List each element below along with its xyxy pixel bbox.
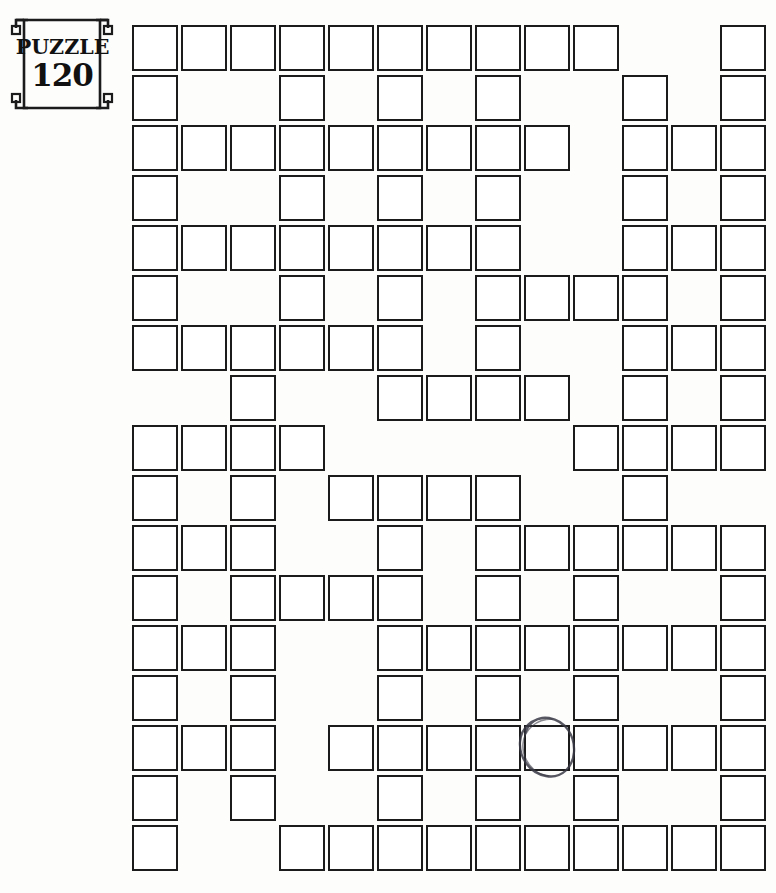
grid-cell[interactable] (426, 825, 472, 871)
grid-cell[interactable] (475, 775, 521, 821)
grid-cell[interactable] (279, 575, 325, 621)
grid-cell[interactable] (524, 125, 570, 171)
grid-cell[interactable] (230, 225, 276, 271)
grid-cell[interactable] (573, 525, 619, 571)
grid-cell[interactable] (132, 125, 178, 171)
grid-cell[interactable] (181, 125, 227, 171)
grid-cell[interactable] (524, 725, 570, 771)
grid-cell[interactable] (132, 225, 178, 271)
grid-cell[interactable] (230, 625, 276, 671)
grid-cell[interactable] (475, 375, 521, 421)
grid-cell[interactable] (132, 625, 178, 671)
grid-cell[interactable] (377, 325, 423, 371)
grid-cell[interactable] (671, 425, 717, 471)
grid-cell[interactable] (279, 125, 325, 171)
grid-cell[interactable] (132, 825, 178, 871)
grid-cell[interactable] (573, 575, 619, 621)
grid-cell[interactable] (475, 175, 521, 221)
grid-cell[interactable] (720, 825, 766, 871)
grid-cell[interactable] (132, 775, 178, 821)
grid-cell[interactable] (671, 825, 717, 871)
grid-cell[interactable] (475, 725, 521, 771)
grid-cell[interactable] (720, 175, 766, 221)
grid-cell[interactable] (720, 75, 766, 121)
grid-cell[interactable] (230, 725, 276, 771)
grid-cell[interactable] (181, 325, 227, 371)
grid-cell[interactable] (132, 575, 178, 621)
grid-cell[interactable] (181, 625, 227, 671)
grid-cell[interactable] (720, 725, 766, 771)
grid-cell[interactable] (622, 325, 668, 371)
grid-cell[interactable] (230, 675, 276, 721)
grid-cell[interactable] (720, 425, 766, 471)
grid-cell[interactable] (524, 25, 570, 71)
grid-cell[interactable] (230, 125, 276, 171)
grid-cell[interactable] (524, 825, 570, 871)
grid-cell[interactable] (475, 25, 521, 71)
grid-cell[interactable] (622, 475, 668, 521)
grid-cell[interactable] (720, 225, 766, 271)
grid-cell[interactable] (279, 225, 325, 271)
grid-cell[interactable] (573, 825, 619, 871)
grid-cell[interactable] (230, 25, 276, 71)
grid-cell[interactable] (230, 325, 276, 371)
grid-cell[interactable] (230, 775, 276, 821)
grid-cell[interactable] (475, 125, 521, 171)
grid-cell[interactable] (132, 175, 178, 221)
grid-cell[interactable] (328, 475, 374, 521)
grid-cell[interactable] (573, 675, 619, 721)
grid-cell[interactable] (328, 325, 374, 371)
grid-cell[interactable] (426, 25, 472, 71)
grid-cell[interactable] (671, 125, 717, 171)
grid-cell[interactable] (181, 25, 227, 71)
grid-cell[interactable] (132, 25, 178, 71)
grid-cell[interactable] (181, 425, 227, 471)
grid-cell[interactable] (377, 825, 423, 871)
grid-cell[interactable] (720, 525, 766, 571)
grid-cell[interactable] (377, 525, 423, 571)
grid-cell[interactable] (671, 725, 717, 771)
grid-cell[interactable] (230, 475, 276, 521)
grid-cell[interactable] (230, 425, 276, 471)
grid-cell[interactable] (524, 625, 570, 671)
grid-cell[interactable] (426, 475, 472, 521)
grid-cell[interactable] (720, 25, 766, 71)
grid-cell[interactable] (279, 25, 325, 71)
grid-cell[interactable] (622, 725, 668, 771)
grid-cell[interactable] (475, 525, 521, 571)
grid-cell[interactable] (328, 575, 374, 621)
grid-cell[interactable] (671, 325, 717, 371)
grid-cell[interactable] (377, 375, 423, 421)
grid-cell[interactable] (720, 575, 766, 621)
grid-cell[interactable] (524, 375, 570, 421)
grid-cell[interactable] (328, 225, 374, 271)
grid-cell[interactable] (720, 325, 766, 371)
grid-cell[interactable] (377, 775, 423, 821)
grid-cell[interactable] (622, 125, 668, 171)
grid-cell[interactable] (573, 725, 619, 771)
grid-cell[interactable] (524, 275, 570, 321)
grid-cell[interactable] (475, 575, 521, 621)
grid-cell[interactable] (475, 75, 521, 121)
grid-cell[interactable] (573, 25, 619, 71)
grid-cell[interactable] (475, 325, 521, 371)
grid-cell[interactable] (720, 275, 766, 321)
grid-cell[interactable] (377, 725, 423, 771)
grid-cell[interactable] (377, 75, 423, 121)
grid-cell[interactable] (524, 525, 570, 571)
grid-cell[interactable] (377, 475, 423, 521)
grid-cell[interactable] (573, 425, 619, 471)
grid-cell[interactable] (377, 575, 423, 621)
grid-cell[interactable] (132, 275, 178, 321)
grid-cell[interactable] (475, 825, 521, 871)
grid-cell[interactable] (671, 625, 717, 671)
grid-cell[interactable] (377, 175, 423, 221)
grid-cell[interactable] (132, 75, 178, 121)
grid-cell[interactable] (181, 525, 227, 571)
grid-cell[interactable] (671, 225, 717, 271)
grid-cell[interactable] (377, 125, 423, 171)
grid-cell[interactable] (230, 575, 276, 621)
grid-cell[interactable] (279, 75, 325, 121)
grid-cell[interactable] (132, 475, 178, 521)
grid-cell[interactable] (279, 175, 325, 221)
